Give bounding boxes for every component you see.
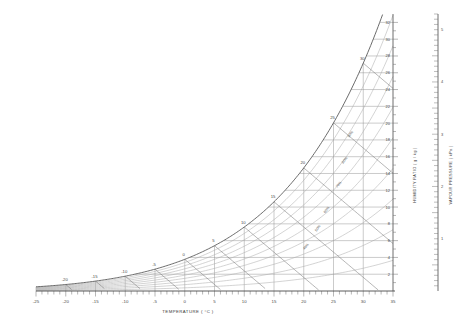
humidity-tick-label-14: 14 <box>386 171 391 176</box>
wetbulb-label--10: -10 <box>121 269 128 274</box>
wetbulb-label--5: -5 <box>152 262 156 267</box>
humidity-tick-label-18: 18 <box>386 137 391 142</box>
humidity-tick-label-26: 26 <box>386 70 391 75</box>
xtick-label-5: 5 <box>213 299 216 304</box>
xtick-label-15: 15 <box>272 299 277 304</box>
humidity-tick-label-22: 22 <box>386 104 391 109</box>
wetbulb-line-30 <box>363 63 393 88</box>
wetbulb-label-0: 0 <box>183 252 186 257</box>
xtick-label-20: 20 <box>301 299 306 304</box>
humidity-tick-label-30: 30 <box>386 37 391 42</box>
psychrometric-chart: -25-20-15-10-505101520253035TEMPERATURE … <box>0 0 458 318</box>
xtick-label-25: 25 <box>331 299 336 304</box>
humidity-axis-label: HUMIDITY RATIO ( g / kg ) <box>412 147 417 203</box>
rh-label-90: 90% <box>347 130 354 138</box>
xtick-label--25: -25 <box>33 299 40 304</box>
pressure-tick-label-2: 2 <box>441 184 444 189</box>
pressure-tick-label-4: 4 <box>441 79 444 84</box>
xtick-label--15: -15 <box>92 299 99 304</box>
chart-canvas: -25-20-15-10-505101520253035TEMPERATURE … <box>0 0 458 318</box>
xtick-label-10: 10 <box>242 299 247 304</box>
xtick-label--10: -10 <box>122 299 129 304</box>
rh-label-50: 50% <box>314 224 321 232</box>
xtick-label--20: -20 <box>63 299 70 304</box>
humidity-tick-label-10: 10 <box>386 205 391 210</box>
saturation-curve <box>36 15 383 287</box>
wetbulb-label--20: -20 <box>62 277 69 282</box>
wetbulb-label-20: 20 <box>300 160 305 165</box>
x-axis-label: TEMPERATURE ( °C ) <box>162 309 214 314</box>
wetbulb-label-30: 30 <box>360 56 365 61</box>
rh-label-40: 40% <box>302 243 309 251</box>
humidity-tick-label-16: 16 <box>386 154 391 159</box>
wetbulb-label-25: 25 <box>330 115 335 120</box>
wetbulb-label-5: 5 <box>212 238 215 243</box>
xtick-label--5: -5 <box>153 299 157 304</box>
rh-label-80: 80% <box>341 156 348 164</box>
wetbulb-line-5 <box>215 246 266 289</box>
pressure-axis-label: VAPOUR PRESSURE ( kPa ) <box>448 145 453 205</box>
pressure-tick-label-3: 3 <box>441 132 444 137</box>
humidity-tick-label-20: 20 <box>386 121 391 126</box>
xtick-label-0: 0 <box>184 299 187 304</box>
xtick-label-30: 30 <box>361 299 366 304</box>
wetbulb-label-15: 15 <box>271 194 276 199</box>
xtick-label-35: 35 <box>391 299 396 304</box>
humidity-tick-label-12: 12 <box>386 188 391 193</box>
humidity-tick-label-24: 24 <box>386 87 391 92</box>
wetbulb-label--15: -15 <box>91 274 98 279</box>
pressure-tick-label-5: 5 <box>441 27 444 32</box>
humidity-tick-label-28: 28 <box>386 53 391 58</box>
humidity-tick-label-32: 32 <box>386 20 391 25</box>
pressure-tick-label-1: 1 <box>441 236 444 241</box>
wetbulb-label-10: 10 <box>241 220 246 225</box>
